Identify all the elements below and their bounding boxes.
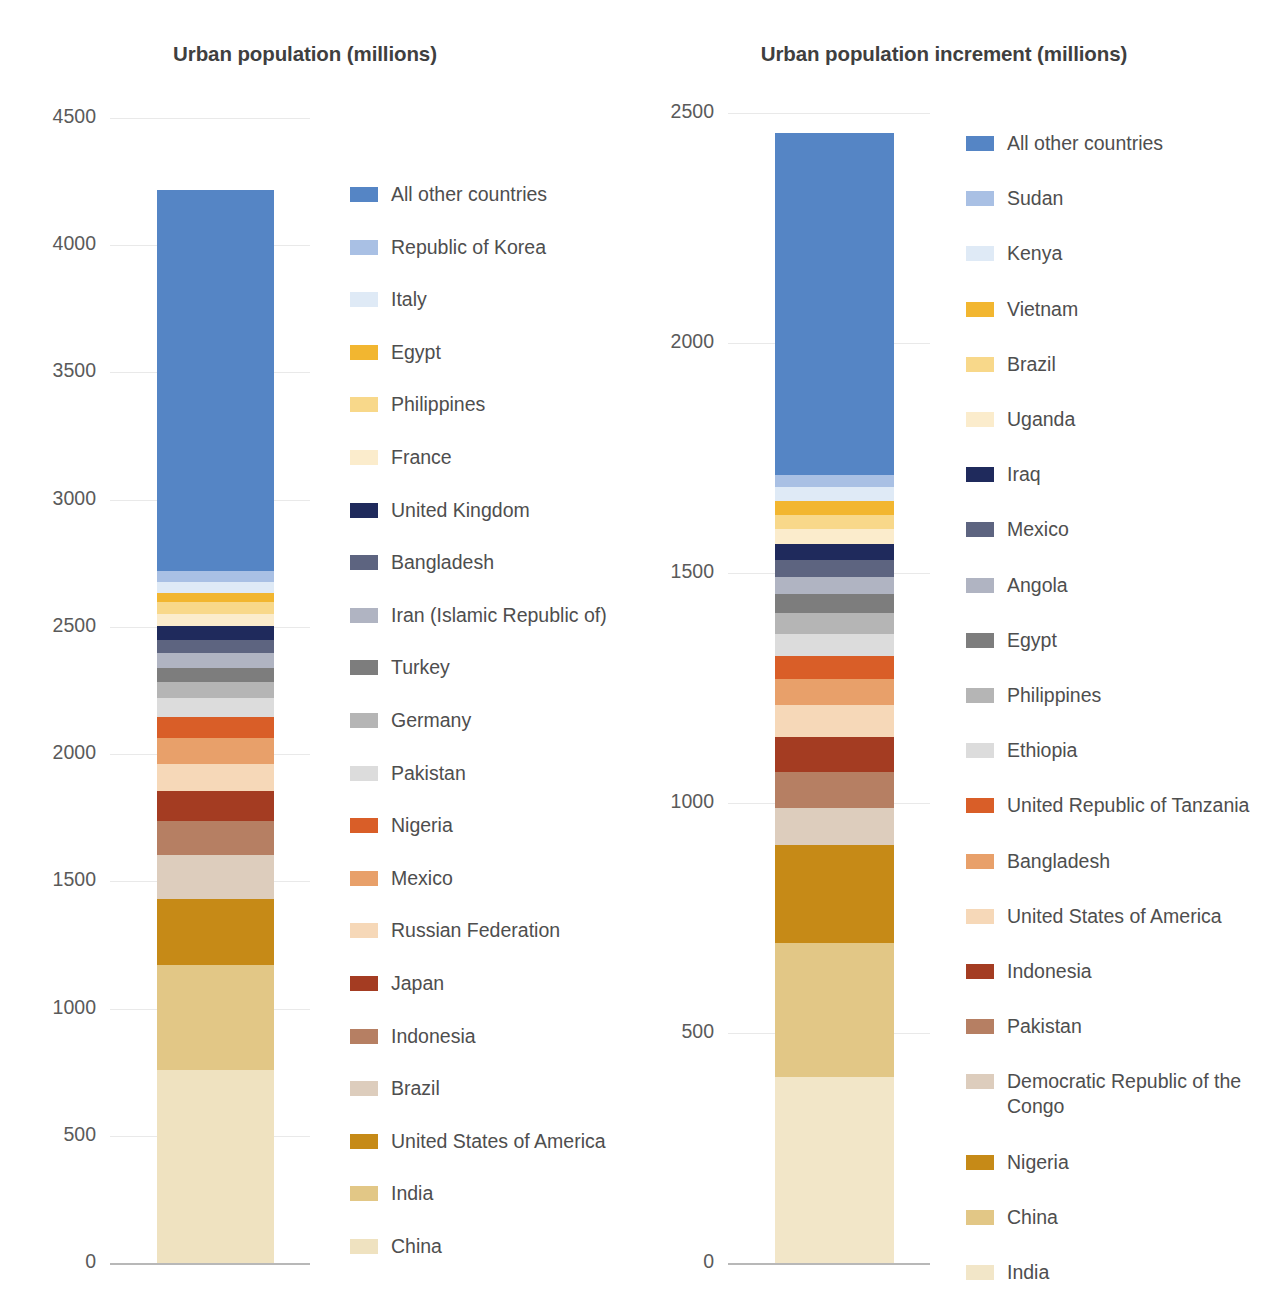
bar-segment[interactable]	[775, 943, 894, 1077]
bar-segment[interactable]	[157, 626, 274, 639]
legend-item[interactable]: China	[350, 1234, 630, 1259]
legend-item[interactable]: Japan	[350, 971, 630, 996]
bar-segment[interactable]	[157, 614, 274, 627]
legend-item[interactable]: Sudan	[966, 186, 1266, 211]
legend-item[interactable]: Democratic Republic of the Congo	[966, 1069, 1266, 1119]
legend-item[interactable]: Angola	[966, 573, 1266, 598]
legend-item[interactable]: Nigeria	[966, 1150, 1266, 1175]
bar-segment[interactable]	[775, 133, 894, 474]
legend-item-label: Mexico	[391, 866, 453, 891]
bar-segment[interactable]	[775, 515, 894, 529]
legend-item[interactable]: Brazil	[966, 352, 1266, 377]
bar-segment[interactable]	[157, 593, 274, 603]
bar-segment[interactable]	[775, 544, 894, 560]
legend-item[interactable]: United States of America	[350, 1129, 630, 1154]
bar-segment[interactable]	[157, 668, 274, 683]
legend-item[interactable]: Indonesia	[350, 1024, 630, 1049]
bar-segment[interactable]	[775, 1077, 894, 1263]
legend-item[interactable]: Pakistan	[966, 1014, 1266, 1039]
legend-item[interactable]: Mexico	[966, 517, 1266, 542]
bar-segment[interactable]	[157, 821, 274, 855]
legend-item[interactable]: Philippines	[350, 392, 630, 417]
bar-segment[interactable]	[775, 772, 894, 808]
legend-item[interactable]: Mexico	[350, 866, 630, 891]
legend-swatch-icon	[966, 688, 994, 703]
legend-swatch-icon	[966, 578, 994, 593]
bar-segment[interactable]	[775, 613, 894, 634]
bar-segment[interactable]	[775, 656, 894, 679]
bar-segment[interactable]	[157, 190, 274, 572]
legend-item[interactable]: France	[350, 445, 630, 470]
bar-segment[interactable]	[775, 634, 894, 656]
legend-item[interactable]: United Republic of Tanzania	[966, 793, 1266, 818]
bar-segment[interactable]	[775, 475, 894, 488]
bar-segment[interactable]	[157, 738, 274, 763]
legend-item[interactable]: Italy	[350, 287, 630, 312]
legend-item[interactable]: Indonesia	[966, 959, 1266, 984]
bar-segment[interactable]	[157, 571, 274, 582]
y-axis-tick-label: 1000	[634, 790, 714, 813]
legend-item[interactable]: All other countries	[966, 131, 1266, 156]
stacked-bar[interactable]	[775, 133, 894, 1263]
bar-segment[interactable]	[157, 791, 274, 821]
legend-swatch-icon	[350, 871, 378, 886]
bar-segment[interactable]	[157, 965, 274, 1070]
legend-item-label: India	[1007, 1260, 1049, 1285]
legend-item[interactable]: Uganda	[966, 407, 1266, 432]
bar-segment[interactable]	[775, 529, 894, 544]
legend-item[interactable]: Philippines	[966, 683, 1266, 708]
bar-segment[interactable]	[157, 582, 274, 592]
legend-item[interactable]: Ethiopia	[966, 738, 1266, 763]
legend-item[interactable]: Nigeria	[350, 813, 630, 838]
legend-item[interactable]: Egypt	[966, 628, 1266, 653]
bar-segment[interactable]	[157, 764, 274, 791]
legend-item-label: Iran (Islamic Republic of)	[391, 603, 607, 628]
legend-item-label: Brazil	[1007, 352, 1056, 377]
bar-segment[interactable]	[157, 653, 274, 667]
legend-item[interactable]: Turkey	[350, 655, 630, 680]
legend-item[interactable]: Brazil	[350, 1076, 630, 1101]
bar-segment[interactable]	[775, 845, 894, 943]
legend-item[interactable]: Vietnam	[966, 297, 1266, 322]
stacked-bar[interactable]	[157, 189, 274, 1263]
legend-item[interactable]: Bangladesh	[966, 849, 1266, 874]
legend-item[interactable]: All other countries	[350, 182, 630, 207]
bar-segment[interactable]	[775, 737, 894, 772]
legend-item[interactable]: Iraq	[966, 462, 1266, 487]
bar-segment[interactable]	[157, 602, 274, 613]
bar-segment[interactable]	[775, 487, 894, 500]
legend-swatch-icon	[966, 522, 994, 537]
legend-item[interactable]: Russian Federation	[350, 918, 630, 943]
bar-segment[interactable]	[775, 560, 894, 577]
legend-item[interactable]: Republic of Korea	[350, 235, 630, 260]
legend-item[interactable]: Pakistan	[350, 761, 630, 786]
legend-item[interactable]: Iran (Islamic Republic of)	[350, 603, 630, 628]
legend-item[interactable]: United Kingdom	[350, 498, 630, 523]
legend-item[interactable]: India	[350, 1181, 630, 1206]
legend-item[interactable]: United States of America	[966, 904, 1266, 929]
bar-segment[interactable]	[157, 899, 274, 965]
bar-segment[interactable]	[157, 855, 274, 899]
bar-segment[interactable]	[775, 577, 894, 594]
bar-segment[interactable]	[157, 640, 274, 654]
bar-segment[interactable]	[775, 679, 894, 705]
legend-item[interactable]: Kenya	[966, 241, 1266, 266]
bar-segment[interactable]	[775, 594, 894, 613]
legend-item-label: Nigeria	[391, 813, 453, 838]
bar-segment[interactable]	[157, 698, 274, 717]
legend-item[interactable]: Bangladesh	[350, 550, 630, 575]
legend-item[interactable]: India	[966, 1260, 1266, 1285]
bar-segment[interactable]	[775, 705, 894, 737]
legend-item-label: Egypt	[391, 340, 441, 365]
bar-segment[interactable]	[157, 682, 274, 698]
legend-item[interactable]: Egypt	[350, 340, 630, 365]
bar-segment[interactable]	[775, 808, 894, 846]
chart-panel-urban-population: Urban population (millions) 050010001500…	[0, 0, 634, 1304]
bar-segment[interactable]	[157, 1070, 274, 1263]
legend-item[interactable]: China	[966, 1205, 1266, 1230]
legend-item[interactable]: Germany	[350, 708, 630, 733]
legend-item-label: All other countries	[1007, 131, 1163, 156]
bar-segment[interactable]	[775, 501, 894, 515]
chart-panel-urban-population-increment: Urban population increment (millions) 05…	[634, 0, 1269, 1304]
bar-segment[interactable]	[157, 717, 274, 739]
